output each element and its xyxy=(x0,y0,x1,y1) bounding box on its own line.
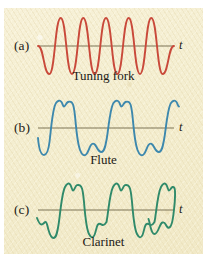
axis-label-t-c: t xyxy=(179,202,182,217)
clarinet-wave-path xyxy=(37,183,175,238)
caption-clarinet: Clarinet xyxy=(4,234,203,250)
caption-flute: Flute xyxy=(4,152,203,168)
caption-tuning-fork: Tuning fork xyxy=(4,68,203,84)
panel-clarinet: (c) t Clarinet xyxy=(4,172,203,254)
axis-label-t-b: t xyxy=(179,120,182,135)
axis-label-t-a: t xyxy=(179,38,182,53)
waveform-figure: (a) t Tuning fork (b) t Flute (c) t Clar… xyxy=(4,8,203,254)
panel-tuning-fork: (a) t Tuning fork xyxy=(4,8,203,90)
panel-flute: (b) t Flute xyxy=(4,90,203,172)
